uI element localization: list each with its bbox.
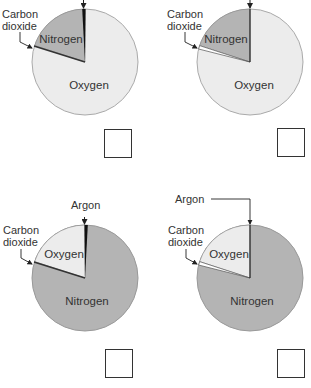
co2-label-a: Carbondioxide xyxy=(2,8,38,32)
nitrogen-label-b: Nitrogen xyxy=(204,33,247,45)
checkbox-c[interactable] xyxy=(105,349,133,378)
oxygen-label-a: Oxygen xyxy=(69,79,109,91)
checkbox-d[interactable] xyxy=(277,349,305,378)
oxygen-label-b: Oxygen xyxy=(234,79,274,91)
nitrogen-label-d: Nitrogen xyxy=(230,295,273,307)
co2-label-c: Carbondioxide xyxy=(3,224,39,248)
nitrogen-label-a: Nitrogen xyxy=(39,33,82,45)
argon-label-c: Argon xyxy=(71,199,100,211)
co2-label-d: Carbondioxide xyxy=(168,224,204,248)
checkbox-a[interactable] xyxy=(104,129,132,158)
oxygen-label-d: Oxygen xyxy=(209,248,249,260)
argon-label-d: Argon xyxy=(175,193,204,205)
co2-label-b: Carbondioxide xyxy=(167,8,203,32)
pie-chart-d xyxy=(186,199,303,331)
nitrogen-label-c: Nitrogen xyxy=(65,295,108,307)
pie-charts-graphic xyxy=(0,0,311,388)
oxygen-label-c: Oxygen xyxy=(44,248,84,260)
checkbox-b[interactable] xyxy=(277,128,305,157)
